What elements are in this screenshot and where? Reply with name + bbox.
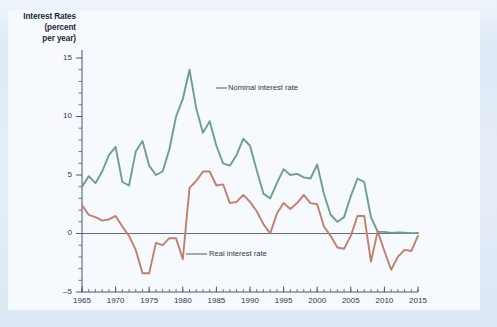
y-tick-label-15: 15 [50, 53, 72, 62]
y-tick-label--5: –5 [50, 287, 72, 296]
chart-svg [0, 0, 497, 327]
figure-container: Interest Rates (percent per year) –50510… [0, 0, 497, 327]
x-tick-label-1965: 1965 [65, 296, 99, 305]
x-tick-label-1970: 1970 [99, 296, 133, 305]
x-tick-label-2010: 2010 [367, 296, 401, 305]
x-tick-label-2015: 2015 [401, 296, 435, 305]
x-tick-label-2000: 2000 [300, 296, 334, 305]
x-tick-label-1995: 1995 [267, 296, 301, 305]
y-tick-label-5: 5 [50, 170, 72, 179]
annotation-nominal-interest-rate: Nominal interest rate [228, 83, 298, 92]
x-tick-label-2005: 2005 [334, 296, 368, 305]
x-tick-label-1975: 1975 [132, 296, 166, 305]
series-line-real [82, 171, 418, 273]
series-line-nominal [82, 70, 418, 233]
y-tick-label-10: 10 [50, 111, 72, 120]
x-tick-label-1990: 1990 [233, 296, 267, 305]
x-tick-label-1985: 1985 [199, 296, 233, 305]
y-axis-minor-ticks [76, 58, 82, 292]
axis-major-ticks [82, 287, 418, 293]
annotation-real-interest-rate: Real interest rate [209, 249, 267, 258]
x-tick-label-1980: 1980 [166, 296, 200, 305]
y-tick-label-0: 0 [50, 228, 72, 237]
